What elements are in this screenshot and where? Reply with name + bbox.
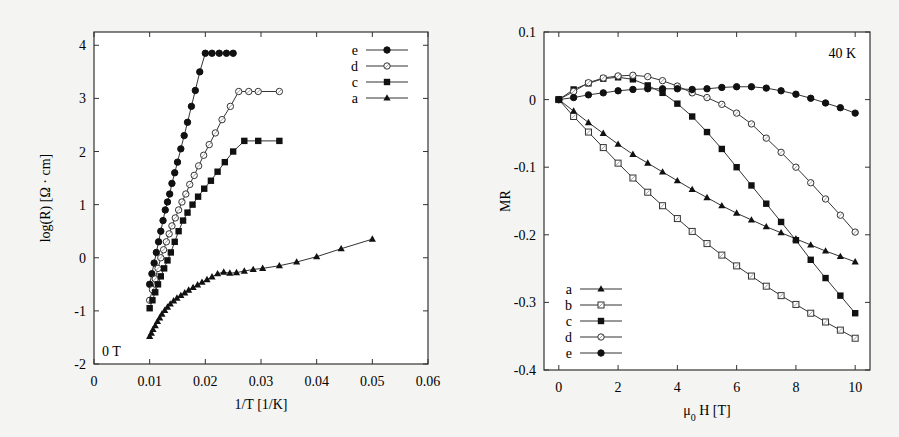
data-point-marker bbox=[778, 88, 784, 94]
data-point-marker bbox=[149, 297, 155, 303]
data-point-marker bbox=[852, 110, 858, 116]
data-point-marker bbox=[808, 95, 814, 101]
x-tick-label: 10 bbox=[848, 380, 862, 395]
data-point-marker bbox=[152, 289, 158, 295]
data-point-marker bbox=[216, 50, 222, 56]
data-point-marker bbox=[195, 193, 201, 199]
y-tick-label: 3 bbox=[79, 91, 86, 106]
data-point-marker bbox=[808, 257, 814, 263]
data-point-marker bbox=[164, 257, 170, 263]
legend-marker bbox=[598, 318, 604, 324]
x-tick-label: 6 bbox=[733, 380, 740, 395]
y-tick-label: -0.2 bbox=[514, 228, 536, 243]
legend-label: d bbox=[351, 59, 358, 74]
data-point-marker bbox=[822, 275, 828, 281]
data-point-marker bbox=[197, 69, 203, 75]
data-point-marker bbox=[174, 159, 180, 165]
data-point-marker bbox=[230, 50, 236, 56]
data-point-marker bbox=[155, 239, 161, 245]
data-point-marker bbox=[202, 50, 208, 56]
data-point-marker bbox=[615, 88, 621, 94]
legend-label: d bbox=[565, 330, 572, 345]
data-point-marker bbox=[659, 86, 665, 92]
data-point-marker bbox=[180, 217, 186, 223]
x-tick-label: 0.05 bbox=[360, 374, 385, 389]
y-axis-label: log(R) [Ω · cm] bbox=[38, 154, 54, 243]
x-tick-label: 0 bbox=[91, 374, 98, 389]
data-point-marker bbox=[852, 310, 858, 316]
data-point-marker bbox=[837, 292, 843, 298]
data-point-marker bbox=[188, 103, 194, 109]
data-point-marker bbox=[689, 86, 695, 92]
x-tick-label: 0 bbox=[555, 380, 562, 395]
y-tick-label: 4 bbox=[79, 38, 86, 53]
data-point-marker bbox=[222, 159, 228, 165]
x-tick-label: 0.04 bbox=[304, 374, 329, 389]
legend-marker bbox=[384, 47, 390, 53]
data-point-marker bbox=[158, 228, 164, 234]
data-point-marker bbox=[164, 199, 170, 205]
data-point-marker bbox=[704, 86, 710, 92]
data-point-marker bbox=[230, 148, 236, 154]
data-point-marker bbox=[704, 129, 710, 135]
y-axis-label: MR bbox=[498, 189, 513, 211]
data-point-marker bbox=[719, 84, 725, 90]
y-tick-label: -2 bbox=[74, 357, 86, 372]
data-point-marker bbox=[189, 201, 195, 207]
data-point-marker bbox=[153, 249, 159, 255]
data-point-marker bbox=[158, 273, 164, 279]
data-point-marker bbox=[570, 94, 576, 100]
legend-label: c bbox=[352, 75, 358, 90]
data-point-marker bbox=[223, 50, 229, 56]
data-point-marker bbox=[719, 146, 725, 152]
data-point-marker bbox=[162, 207, 168, 213]
data-point-marker bbox=[778, 219, 784, 225]
y-tick-label: 0.1 bbox=[519, 25, 537, 40]
y-tick-label: 1 bbox=[79, 198, 86, 213]
data-point-marker bbox=[645, 86, 651, 92]
data-point-marker bbox=[763, 201, 769, 207]
data-point-marker bbox=[181, 132, 187, 138]
figure: 00.010.020.030.040.050.06-2-1012340 T1/T… bbox=[0, 0, 899, 437]
x-tick-label: 8 bbox=[792, 380, 799, 395]
legend-label: e bbox=[352, 43, 358, 58]
data-point-marker bbox=[674, 100, 680, 106]
data-point-marker bbox=[837, 105, 843, 111]
right-chart-magnetoresistance-vs-field: 02468100.10-0.1-0.2-0.3-0.440 Kμ0 H [T]M… bbox=[498, 25, 870, 423]
legend-label: c bbox=[566, 314, 572, 329]
data-point-marker bbox=[556, 96, 562, 102]
data-point-marker bbox=[763, 85, 769, 91]
data-point-marker bbox=[793, 237, 799, 243]
x-tick-label: 0.03 bbox=[249, 374, 274, 389]
data-point-marker bbox=[733, 84, 739, 90]
data-point-marker bbox=[600, 90, 606, 96]
condition-annotation: 0 T bbox=[102, 344, 121, 359]
data-point-marker bbox=[175, 228, 181, 234]
data-point-marker bbox=[172, 239, 178, 245]
data-point-marker bbox=[630, 86, 636, 92]
data-point-marker bbox=[201, 186, 207, 192]
data-point-marker bbox=[793, 91, 799, 97]
y-tick-label: 0 bbox=[529, 93, 536, 108]
y-tick-label: -0.4 bbox=[514, 363, 536, 378]
y-tick-label: -0.1 bbox=[514, 160, 536, 175]
data-point-marker bbox=[172, 170, 178, 176]
data-point-marker bbox=[209, 50, 215, 56]
data-point-marker bbox=[192, 87, 198, 93]
legend-label: b bbox=[565, 298, 572, 313]
data-point-marker bbox=[178, 146, 184, 152]
data-point-marker bbox=[748, 84, 754, 90]
condition-annotation: 40 K bbox=[828, 46, 856, 61]
data-point-marker bbox=[822, 100, 828, 106]
legend-label: e bbox=[566, 346, 572, 361]
x-axis-label: μ0 H [T] bbox=[683, 403, 731, 423]
y-tick-label: 0 bbox=[79, 251, 86, 266]
data-point-marker bbox=[689, 113, 695, 119]
data-point-marker bbox=[674, 86, 680, 92]
data-point-marker bbox=[169, 180, 175, 186]
legend-marker bbox=[384, 79, 390, 85]
x-tick-label: 0.06 bbox=[416, 374, 441, 389]
data-point-marker bbox=[208, 178, 214, 184]
data-point-marker bbox=[733, 164, 739, 170]
y-tick-label: -1 bbox=[74, 304, 86, 319]
